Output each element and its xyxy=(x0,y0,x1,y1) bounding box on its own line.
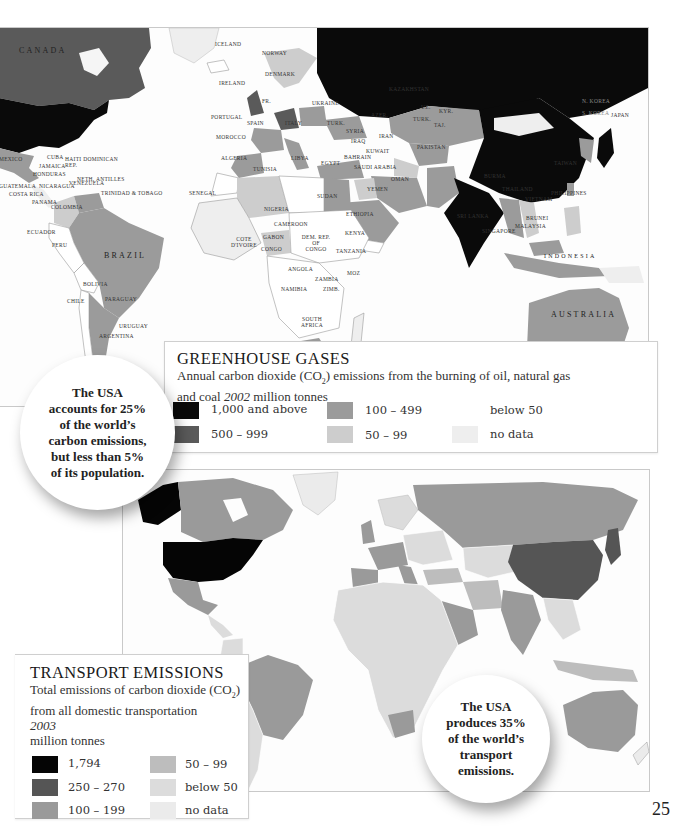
label-kazakhstan: KAZAKHSTAN xyxy=(389,86,429,92)
subtitle-text: Total emissions of carbon dioxide (CO xyxy=(30,682,232,697)
country-iran xyxy=(463,580,503,610)
callout-line: The USA xyxy=(446,699,526,715)
country-russia xyxy=(317,28,648,118)
label-honduras: HONDURAS xyxy=(33,171,66,177)
subtitle-text: Annual carbon dioxide (CO xyxy=(177,368,322,383)
legend-swatch-1794 xyxy=(32,756,58,773)
country-mexico xyxy=(0,148,39,183)
label-namibia: NAMIBIA xyxy=(281,286,307,292)
label-sri-lanka: SRI LANKA xyxy=(457,213,489,219)
label-nicaragua: NICARAGUA xyxy=(39,183,75,189)
callout-line: emissions. xyxy=(446,763,526,779)
subtitle-text: ) emissions from the burning of oil, nat… xyxy=(326,368,570,383)
label-egypt: EGYPT xyxy=(321,160,340,166)
label-tajikistan: TAJ. xyxy=(434,122,446,128)
label-nigeria: NIGERIA xyxy=(264,206,289,212)
label-yemen: YEMEN xyxy=(367,186,388,192)
label-france: FR. xyxy=(262,98,271,104)
subtitle-year: 2003 xyxy=(30,718,56,733)
label-syria: SYRIA xyxy=(346,128,364,134)
greenhouse-legend-title: GREENHOUSE GASES xyxy=(177,349,350,369)
country-mexico xyxy=(168,578,218,615)
label-zambia: ZAMBIA xyxy=(315,276,339,282)
label-n-korea: N. KOREA xyxy=(582,98,610,104)
callout-text: The USA accounts for 25% of the world’s … xyxy=(48,385,146,481)
callout-usa-transport-emissions: The USA produces 35% of the world’s tran… xyxy=(422,675,550,803)
label-south-africa: SOUTH AFRICA xyxy=(299,316,325,328)
legend-label-1000-above: 1,000 and above xyxy=(211,402,307,416)
country-indonesia xyxy=(553,660,638,682)
label-taiwan: TAIWAN xyxy=(554,160,577,166)
country-india xyxy=(501,590,541,655)
label-tanzania: TANZANIA xyxy=(336,248,366,254)
label-mozambique: MOZ xyxy=(347,270,360,276)
legend-label-500-999: 500 – 999 xyxy=(211,427,268,441)
country-turkey xyxy=(423,568,463,585)
label-haiti-dominican-rep: HAITI DOMINICAN REP. xyxy=(65,156,125,168)
label-kyrgyzstan: KYR. xyxy=(439,108,453,114)
label-tunisia: TUNISIA xyxy=(253,166,277,172)
label-brazil: BRAZIL xyxy=(104,251,146,260)
label-bolivia: BOLIVIA xyxy=(83,281,108,287)
callout-text: The USA produces 35% of the world’s tran… xyxy=(446,699,526,779)
label-saudi-arabia: SAUDI ARABIA xyxy=(354,164,397,170)
label-italy: ITALY xyxy=(285,120,302,126)
callout-line: accounts for 25% xyxy=(48,401,146,417)
label-iran: IRAN xyxy=(379,133,394,139)
transport-legend-title: TRANSPORT EMISSIONS xyxy=(30,663,224,683)
label-thailand: THAILAND xyxy=(502,186,533,192)
transport-emissions-legend: TRANSPORT EMISSIONS Total emissions of c… xyxy=(15,654,249,819)
legend-label-below-50: below 50 xyxy=(490,403,543,417)
label-cuba: CUBA xyxy=(47,154,63,160)
label-burma: BURMA xyxy=(484,173,506,179)
country-eastern-europe xyxy=(403,530,453,565)
callout-line: produces 35% xyxy=(446,715,526,731)
label-kenya: KENYA xyxy=(345,230,365,236)
subtitle-units: million tonnes xyxy=(30,733,105,748)
label-canada: CANADA xyxy=(19,46,66,55)
label-morocco: MOROCCO xyxy=(216,134,246,140)
country-uk xyxy=(361,520,375,544)
label-peru: PERU xyxy=(52,242,67,248)
legend-swatch-50-99 xyxy=(327,426,353,443)
label-senegal: SENEGAL xyxy=(189,190,216,196)
label-iraq: IRAQ xyxy=(351,138,366,144)
label-drc: DEM. REP. OF CONGO xyxy=(301,234,331,252)
country-russia xyxy=(413,482,638,548)
country-france xyxy=(251,128,284,153)
label-sudan: SUDAN xyxy=(317,193,337,199)
label-jamaica: JAMAICA xyxy=(39,163,66,169)
label-cote-divoire: COTE D'IVOIRE xyxy=(231,236,257,248)
country-greenland xyxy=(169,28,219,63)
label-singapore: SINGAPORE xyxy=(482,228,516,234)
callout-line: The USA xyxy=(48,385,146,401)
callout-usa-carbon-emissions: The USA accounts for 25% of the world’s … xyxy=(20,355,175,510)
label-pakistan: PAKISTAN xyxy=(417,144,446,150)
label-denmark: DENMARK xyxy=(265,71,295,77)
legend-swatch-500-999 xyxy=(173,426,199,443)
label-turkmenistan: TURK. xyxy=(413,116,431,122)
transport-legend-subtitle: Total emissions of carbon dioxide (CO2) … xyxy=(30,682,250,748)
label-gabon: GABON xyxy=(263,234,284,240)
label-guatemala: GUATEMALA xyxy=(0,183,36,189)
legend-label-no-data: no data xyxy=(490,427,534,441)
label-indonesia: INDONESIA xyxy=(544,253,596,259)
country-australia xyxy=(563,690,638,752)
subtitle-text: from all domestic transportation xyxy=(30,703,197,718)
country-italy xyxy=(284,138,309,170)
country-se-asia xyxy=(543,598,581,640)
country-philippines xyxy=(564,206,581,236)
label-ecuador: ECUADOR xyxy=(27,229,56,235)
country-scandinavia xyxy=(378,495,418,530)
label-argentina: ARGENTINA xyxy=(99,333,134,339)
label-turkey: TURK. xyxy=(327,120,345,126)
label-norway: NORWAY xyxy=(262,50,287,56)
page-number: 25 xyxy=(652,799,670,820)
country-canada xyxy=(0,28,151,110)
label-vietnam: VIETNAM xyxy=(525,196,552,202)
label-uruguay: URUGUAY xyxy=(119,323,148,329)
label-iceland: ICELAND xyxy=(215,41,241,47)
country-china xyxy=(508,540,603,600)
label-panama: PANAMA xyxy=(32,199,57,205)
greenhouse-legend-subtitle: Annual carbon dioxide (CO2) emissions fr… xyxy=(177,368,647,404)
